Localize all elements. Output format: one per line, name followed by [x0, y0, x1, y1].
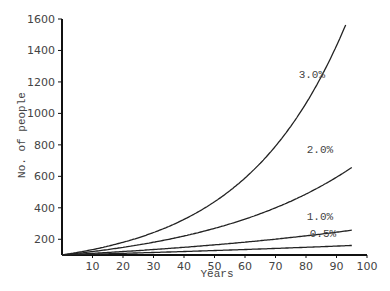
- x-tick-label: 10: [86, 260, 100, 273]
- y-tick-label: 1200: [27, 76, 55, 89]
- growth-chart: 1020304050607080901002004006008001000120…: [0, 0, 390, 291]
- series-label: 2.0%: [307, 144, 334, 156]
- series-label: 0.5%: [310, 228, 337, 240]
- y-tick-label: 1400: [27, 44, 55, 57]
- series-label: 3.0%: [299, 69, 326, 81]
- series-label: 1.0%: [307, 211, 334, 223]
- y-tick-label: 1600: [27, 13, 55, 26]
- x-axis-label: Years: [200, 268, 233, 280]
- x-tick-label: 80: [299, 260, 313, 273]
- x-tick-label: 40: [177, 260, 191, 273]
- y-tick-label: 1000: [27, 107, 55, 120]
- x-tick-label: 20: [116, 260, 130, 273]
- x-tick-label: 70: [269, 260, 283, 273]
- x-tick-label: 30: [147, 260, 161, 273]
- x-tick-label: 90: [330, 260, 344, 273]
- series-labels: 3.0%2.0%1.0%0.5%: [299, 69, 337, 241]
- y-tick-label: 600: [34, 170, 55, 183]
- x-tick-label: 100: [357, 260, 378, 273]
- y-tick-label: 400: [34, 202, 55, 215]
- x-tick-label: 60: [238, 260, 252, 273]
- y-tick-label: 800: [34, 139, 55, 152]
- y-axis-label: No. of people: [16, 92, 28, 178]
- y-tick-label: 200: [34, 233, 55, 246]
- series-line-30: [62, 25, 346, 255]
